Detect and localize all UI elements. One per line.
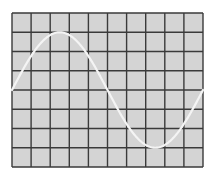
oscilloscope-display — [0, 0, 214, 172]
